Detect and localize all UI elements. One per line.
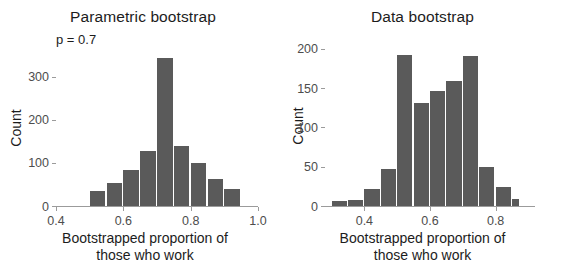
histogram-bar bbox=[90, 191, 106, 207]
histogram-bar bbox=[123, 170, 139, 207]
plot-area-data: 0501001502000.40.60.8 bbox=[325, 46, 535, 207]
panel-subtitle-parametric: p = 0.7 bbox=[56, 33, 96, 46]
y-axis-tick-mark-parametric bbox=[52, 120, 56, 121]
histogram-bar bbox=[381, 169, 396, 207]
panel-data-bootstrap: Data bootstrap Count 0501001502000.40.60… bbox=[280, 0, 561, 274]
histogram-bar bbox=[208, 179, 224, 207]
histogram-bar bbox=[191, 163, 207, 207]
x-axis-label-line1: Bootstrapped proportion of bbox=[284, 230, 561, 247]
y-axis-tick-label-parametric: 100 bbox=[28, 158, 56, 171]
y-axis-tick-label-data: 0 bbox=[311, 201, 325, 214]
y-axis-tick-mark-parametric bbox=[52, 163, 56, 164]
panel-title-parametric: Parametric bootstrap bbox=[0, 9, 280, 25]
y-axis-tick-label-data: 50 bbox=[304, 161, 325, 174]
histogram-bar bbox=[157, 58, 173, 207]
x-axis-tick-label-parametric: 0.4 bbox=[47, 215, 64, 228]
y-axis-tick-mark-data bbox=[321, 49, 325, 50]
y-axis-tick-mark-data bbox=[321, 88, 325, 89]
x-axis-tick-mark-parametric bbox=[123, 207, 124, 211]
x-axis-tick-label-parametric: 1.0 bbox=[249, 215, 266, 228]
x-axis-label-line2: those who work bbox=[284, 247, 561, 264]
x-axis-label-parametric: Bootstrapped proportion of those who wor… bbox=[0, 230, 280, 264]
histogram-bar bbox=[107, 183, 123, 207]
x-axis-tick-mark-data bbox=[496, 207, 497, 211]
y-axis-tick-label-data: 150 bbox=[297, 83, 325, 96]
x-axis-tick-label-data: 0.4 bbox=[356, 215, 373, 228]
y-axis-tick-mark-data bbox=[321, 206, 325, 207]
histogram-bar bbox=[174, 146, 190, 207]
histogram-bar bbox=[364, 189, 379, 207]
x-axis-tick-label-data: 0.8 bbox=[487, 215, 504, 228]
x-axis-tick-mark-parametric bbox=[191, 207, 192, 211]
histogram-bar bbox=[479, 167, 494, 207]
y-axis-tick-label-parametric: 0 bbox=[42, 201, 56, 214]
x-axis-tick-mark-parametric bbox=[56, 207, 57, 211]
histogram-bar bbox=[446, 81, 461, 207]
histogram-bar bbox=[397, 55, 412, 207]
y-axis-tick-label-parametric: 200 bbox=[28, 115, 56, 128]
y-axis-tick-mark-data bbox=[321, 167, 325, 168]
x-axis-label-data: Bootstrapped proportion of those who wor… bbox=[280, 230, 561, 264]
histogram-bar bbox=[430, 91, 445, 207]
histogram-bar bbox=[496, 187, 511, 207]
plot-area-parametric: 01002003000.40.60.81.0 bbox=[56, 52, 258, 207]
figure-bootstrap-histograms: Parametric bootstrap p = 0.7 Count 01002… bbox=[0, 0, 561, 274]
panel-parametric-bootstrap: Parametric bootstrap p = 0.7 Count 01002… bbox=[0, 0, 280, 274]
x-axis-label-line2: those who work bbox=[10, 247, 280, 264]
x-axis-tick-mark-parametric bbox=[258, 207, 259, 211]
x-axis-tick-mark-data bbox=[364, 207, 365, 211]
y-axis-tick-label-parametric: 300 bbox=[28, 72, 56, 85]
y-axis-tick-label-data: 100 bbox=[297, 122, 325, 135]
x-axis-tick-label-data: 0.6 bbox=[421, 215, 438, 228]
bar-series-parametric bbox=[56, 52, 258, 207]
y-axis-label-parametric: Count bbox=[8, 98, 24, 158]
y-axis-tick-label-data: 200 bbox=[297, 44, 325, 57]
histogram-bar bbox=[224, 189, 240, 207]
x-axis-line-parametric bbox=[56, 206, 258, 207]
bar-series-data bbox=[325, 46, 535, 207]
histogram-bar bbox=[414, 103, 429, 207]
x-axis-tick-label-parametric: 0.8 bbox=[182, 215, 199, 228]
y-axis-tick-mark-data bbox=[321, 127, 325, 128]
panel-title-data: Data bootstrap bbox=[280, 9, 561, 25]
y-axis-tick-mark-parametric bbox=[52, 77, 56, 78]
histogram-bar bbox=[140, 151, 156, 207]
x-axis-tick-label-parametric: 0.6 bbox=[115, 215, 132, 228]
x-axis-tick-mark-data bbox=[430, 207, 431, 211]
histogram-bar bbox=[463, 56, 478, 207]
x-axis-label-line1: Bootstrapped proportion of bbox=[10, 230, 280, 247]
